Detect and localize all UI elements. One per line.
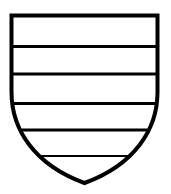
- heraldic-shield-figure: Heraldic shield with horizontal bars: [0, 0, 171, 194]
- shield-drawing: Heraldic shield with horizontal bars: [0, 0, 171, 194]
- shield-outline-path: [12, 16, 158, 184]
